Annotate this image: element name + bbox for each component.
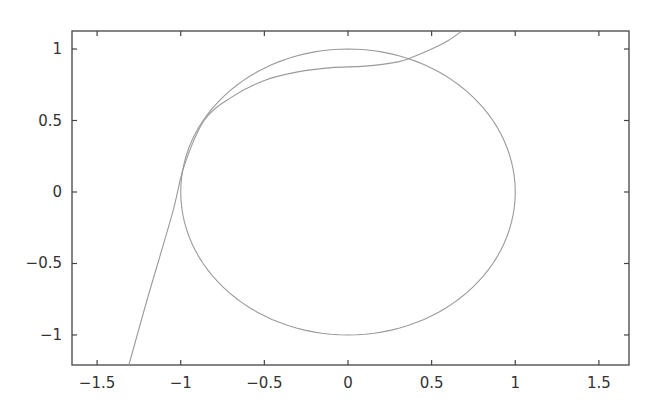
x-tick-label: −1: [170, 374, 192, 392]
y-tick-label: 1: [52, 40, 62, 58]
x-tick-label: −0.5: [246, 374, 282, 392]
series-layer: [129, 31, 515, 365]
plot-area: −1.5−1−0.500.511.510.50−0.5−1: [26, 31, 629, 392]
y-tick-label: −0.5: [26, 254, 62, 272]
curve-series: [129, 31, 462, 365]
axes-box: [72, 31, 629, 365]
x-tick-label: 0.5: [420, 374, 444, 392]
x-tick-label: 0: [343, 374, 353, 392]
x-tick-label: −1.5: [79, 374, 115, 392]
circle-series: [181, 49, 516, 335]
x-tick-label: 1.5: [587, 374, 611, 392]
y-tick-label: 0.5: [38, 112, 62, 130]
y-tick-label: 0: [52, 183, 62, 201]
y-tick-label: −1: [40, 326, 62, 344]
x-tick-label: 1: [510, 374, 520, 392]
ticks-layer: −1.5−1−0.500.511.510.50−0.5−1: [26, 31, 629, 392]
chart: −1.5−1−0.500.511.510.50−0.5−1: [0, 0, 665, 412]
